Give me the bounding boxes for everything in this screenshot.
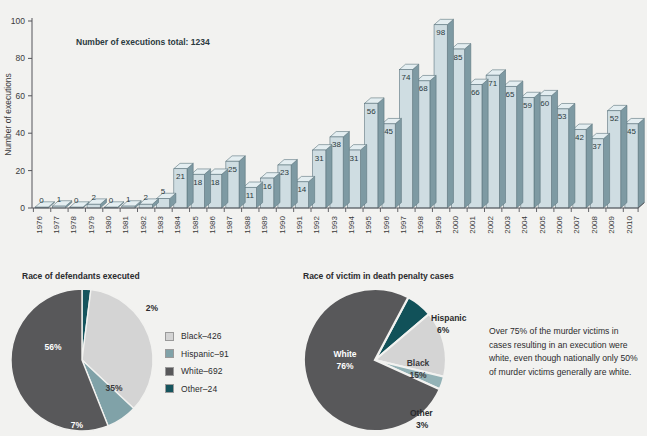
x-tick-1988: 1988 — [243, 215, 252, 233]
bar-1982: 2 — [139, 193, 158, 208]
bar-2002: 71 — [486, 70, 505, 208]
bar-value-1988: 11 — [246, 191, 255, 200]
bar-value-1977: 1 — [57, 195, 62, 204]
x-tick-1992: 1992 — [312, 215, 321, 233]
bar-2001: 66 — [469, 79, 488, 208]
pie-left-chart: 56%35%7%2% — [10, 288, 170, 436]
bar-value-1978: 0 — [74, 196, 79, 205]
x-tick-1978: 1978 — [69, 215, 78, 233]
bar-1993: 38 — [330, 132, 349, 208]
bar-1980: 0 — [104, 196, 123, 208]
executions-bar-chart: 020406080100Number of executionsNumber o… — [0, 0, 647, 260]
bar-1995: 56 — [365, 98, 384, 208]
bar-value-1997: 74 — [401, 73, 410, 82]
bar-1991: 14 — [295, 176, 314, 208]
legend-swatch-hispanic — [165, 349, 174, 358]
x-tick-1985: 1985 — [191, 215, 200, 233]
pie-right-title: Race of victim in death penalty cases — [303, 271, 454, 281]
infographic-root: 020406080100Number of executionsNumber o… — [0, 0, 647, 436]
x-tick-1981: 1981 — [121, 215, 130, 233]
bar-value-2006: 53 — [558, 112, 567, 121]
bar-2005: 60 — [538, 90, 557, 208]
x-tick-1982: 1982 — [139, 215, 148, 233]
bar-2004: 59 — [521, 92, 540, 208]
bar-value-1994: 31 — [349, 154, 358, 163]
bar-1983: 5 — [156, 187, 175, 208]
pie-left-label-black: 35% — [105, 383, 122, 393]
x-tick-2008: 2008 — [590, 215, 599, 233]
bar-value-2000: 85 — [454, 53, 463, 62]
bar-1996: 45 — [382, 118, 401, 208]
x-tick-1991: 1991 — [295, 215, 304, 233]
x-tick-1976: 1976 — [35, 215, 44, 233]
pie-right-label-black-pct: 15% — [409, 370, 426, 380]
bar-1999: 98 — [434, 19, 453, 208]
x-tick-1977: 1977 — [52, 215, 61, 233]
legend-swatch-black — [165, 332, 174, 341]
legend-item-hispanic: Hispanic–91 — [165, 349, 229, 359]
legend-label-black: Black–426 — [181, 331, 222, 341]
bar-1976: 0 — [35, 196, 54, 208]
pie-left-title: Race of defendants executed — [22, 271, 140, 281]
pie-right-label-other-pct: 3% — [416, 420, 429, 430]
y-tick-80: 80 — [16, 53, 26, 63]
bar-1987: 25 — [226, 156, 245, 208]
legend-label-white: White–692 — [181, 366, 223, 376]
bar-value-2005: 60 — [540, 99, 549, 108]
x-tick-1989: 1989 — [260, 215, 269, 233]
pie-left-label-other: 2% — [146, 303, 159, 313]
total-executions-note: Number of executions total: 1234 — [76, 37, 210, 47]
x-tick-2005: 2005 — [538, 215, 547, 233]
bar-1978: 0 — [70, 196, 89, 208]
pie-left-label-hispanic: 7% — [71, 420, 84, 430]
bar-1998: 68 — [417, 75, 436, 208]
bar-value-1982: 2 — [143, 193, 148, 202]
y-axis-label: Number of executions — [3, 73, 13, 156]
bar-value-2003: 65 — [506, 90, 515, 99]
legend-item-white: White–692 — [165, 366, 229, 376]
x-tick-1990: 1990 — [278, 215, 287, 233]
bar-value-2009: 52 — [610, 114, 619, 123]
legend-item-other: Other–24 — [165, 384, 229, 394]
bar-1977: 1 — [52, 195, 71, 208]
bar-value-1979: 2 — [91, 193, 96, 202]
legend-label-other: Other–24 — [181, 384, 217, 394]
pie-right-label-black-name: Black — [407, 358, 430, 368]
bar-value-1984: 21 — [176, 172, 185, 181]
bar-2006: 53 — [556, 103, 575, 208]
bar-2009: 52 — [608, 105, 627, 208]
bar-value-2001: 66 — [471, 88, 480, 97]
legend-swatch-white — [165, 367, 174, 376]
bar-1988: 11 — [243, 182, 262, 208]
x-tick-2009: 2009 — [607, 215, 616, 233]
pie-left-label-white: 56% — [44, 342, 61, 352]
bar-value-1991: 14 — [297, 185, 306, 194]
x-tick-1997: 1997 — [399, 215, 408, 233]
bar-value-2007: 42 — [575, 133, 584, 142]
bar-1992: 31 — [313, 145, 332, 208]
x-tick-2007: 2007 — [572, 215, 581, 233]
y-tick-0: 0 — [20, 203, 25, 213]
bar-1997: 74 — [399, 64, 418, 208]
bar-value-1986: 18 — [211, 178, 220, 187]
bar-1981: 1 — [122, 195, 141, 208]
bar-1979: 2 — [87, 193, 106, 208]
bar-value-2010: 45 — [627, 127, 636, 136]
x-tick-1987: 1987 — [225, 215, 234, 233]
x-tick-2000: 2000 — [451, 215, 460, 233]
bar-value-1992: 31 — [315, 154, 324, 163]
bar-value-1987: 25 — [228, 165, 237, 174]
bar-2007: 42 — [573, 124, 592, 208]
bar-1985: 18 — [191, 169, 210, 208]
bar-value-1976: 0 — [39, 196, 44, 205]
x-tick-1998: 1998 — [416, 215, 425, 233]
bar-1990: 23 — [278, 160, 297, 208]
bar-1986: 18 — [209, 169, 228, 208]
bar-1989: 16 — [261, 173, 280, 208]
x-tick-1996: 1996 — [382, 215, 391, 233]
x-tick-2010: 2010 — [625, 215, 634, 233]
x-tick-1995: 1995 — [364, 215, 373, 233]
bar-value-1985: 18 — [193, 178, 202, 187]
bar-2008: 37 — [590, 133, 609, 208]
bar-1984: 21 — [174, 163, 193, 208]
